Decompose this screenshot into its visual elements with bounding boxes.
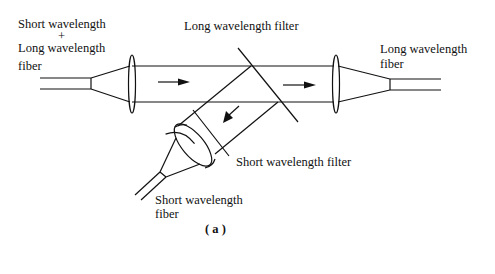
- output-lens: [333, 55, 340, 113]
- short-output-fiber: [135, 138, 200, 200]
- arrow-right-icon: [158, 79, 190, 86]
- long-output-label-line1: Long wavelength: [380, 42, 468, 56]
- short-filter-label: Short wavelength filter: [236, 155, 352, 169]
- arrow-down-left-icon: [223, 106, 239, 123]
- long-filter-label: Long wavelength filter: [184, 19, 299, 33]
- short-output-label-line1: Short wavelength: [155, 193, 244, 207]
- input-label-line3: fiber: [18, 59, 42, 73]
- figure-caption: ( a ): [205, 222, 226, 236]
- collimated-beam: [132, 66, 334, 102]
- input-fiber: [40, 66, 130, 102]
- input-lens: [129, 55, 136, 113]
- input-label-line2: Long wavelength: [18, 41, 106, 55]
- short-wavelength-filter: [193, 110, 229, 156]
- wavelength-demux-diagram: Short wavelength + Long wavelength fiber…: [0, 0, 495, 274]
- long-output-fiber: [338, 66, 441, 102]
- arrow-right-icon: [283, 82, 316, 89]
- long-output-label-line2: fiber: [380, 57, 404, 71]
- short-output-label-line2: fiber: [155, 207, 179, 221]
